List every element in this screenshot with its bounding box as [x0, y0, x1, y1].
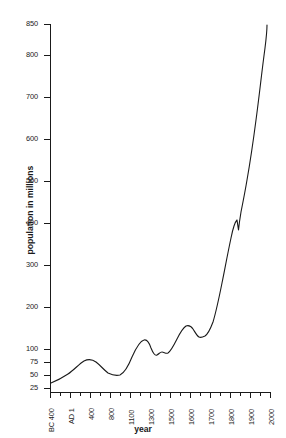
plot-area [0, 0, 286, 438]
xtick-label-1700: 1700 [208, 409, 216, 425]
xtick-label-1100: 1100 [128, 410, 136, 425]
xtick-label-1600: 1600 [188, 409, 196, 425]
xtick-label-800: 800 [108, 408, 116, 420]
population-chart: 850 800 700 600 500 400 300 200 100 75 5… [0, 0, 286, 438]
y-axis-title: population in millions [25, 130, 35, 290]
ytick-label-700: 700 [12, 93, 38, 101]
xtick-label-2000: 2000 [268, 409, 276, 425]
population-curve [51, 25, 267, 383]
ytick-label-75: 75 [12, 358, 38, 366]
ytick-label-800: 800 [12, 51, 38, 59]
y-tick-marks [44, 25, 51, 389]
ytick-label-25: 25 [12, 384, 38, 392]
ytick-label-850: 850 [12, 20, 38, 28]
xtick-label-1800: 1800 [228, 409, 236, 425]
ytick-label-50: 50 [12, 371, 38, 379]
ytick-label-100: 100 [12, 345, 38, 353]
xtick-label-400: 400 [88, 408, 96, 420]
xtick-label-1300: 1300 [148, 409, 156, 425]
xtick-label-1900: 1900 [248, 409, 256, 425]
xtick-label-1500: 1500 [168, 409, 176, 425]
xtick-label-ad1: AD 1 [68, 408, 76, 424]
x-axis-title: year [0, 424, 286, 434]
ytick-label-200: 200 [12, 303, 38, 311]
